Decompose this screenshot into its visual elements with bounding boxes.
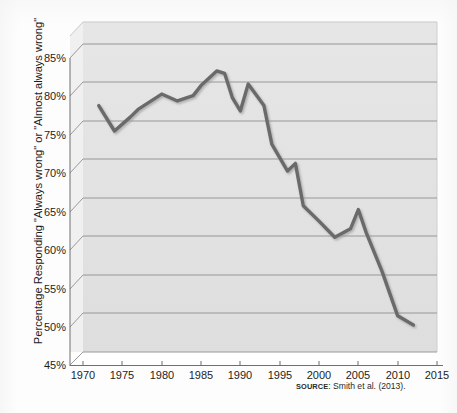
y-tick-label-70: 70% (44, 167, 66, 179)
x-tick-label-2005: 2005 (346, 369, 370, 381)
source-label: SOURCE (296, 382, 328, 391)
y-tick-label-75: 75% (44, 129, 66, 141)
line-chart: 85% 80% 75% 70% 65% 60% 55% 50% 45% (0, 0, 457, 413)
x-tick-label-1985: 1985 (189, 369, 213, 381)
source-note: SOURCE: Smith et al. (2013). (296, 381, 406, 391)
y-tick-label-65: 65% (44, 206, 66, 218)
x-tick-label-2010: 2010 (386, 369, 410, 381)
plot-area-3d (70, 22, 437, 365)
y-tick-label-85: 85% (44, 52, 66, 64)
x-tick-label-1995: 1995 (268, 369, 292, 381)
x-tick-label-2015: 2015 (425, 369, 449, 381)
x-tick-label-1990: 1990 (228, 369, 252, 381)
y-axis-title: Percentage Responding "Always wrong" or … (32, 16, 44, 346)
plot-back-wall (83, 22, 437, 352)
source-text: : Smith et al. (2013). (328, 381, 405, 391)
y-tick-label-50: 50% (44, 321, 66, 333)
x-tick-label-2000: 2000 (307, 369, 331, 381)
y-tick-label-60: 60% (44, 244, 66, 256)
chart-figure: 85% 80% 75% 70% 65% 60% 55% 50% 45% (0, 0, 457, 413)
y-tick-label-45: 45% (44, 359, 66, 371)
y-tick-label-80: 80% (44, 90, 66, 102)
y-tick-label-55: 55% (44, 283, 66, 295)
plot-left-riser (70, 22, 83, 352)
y-axis: 85% 80% 75% 70% 65% 60% 55% 50% 45% (44, 52, 70, 371)
x-tick-label-1970: 1970 (71, 369, 95, 381)
x-tick-label-1980: 1980 (150, 369, 174, 381)
x-tick-label-1975: 1975 (110, 369, 134, 381)
plot-bottom-riser (70, 352, 437, 365)
